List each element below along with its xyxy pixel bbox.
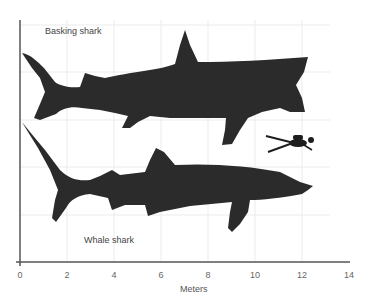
whale-shark-label: Whale shark (84, 235, 134, 245)
tick-14: 14 (344, 270, 354, 280)
diver-silhouette (266, 135, 314, 152)
tick-4: 4 (111, 270, 116, 280)
tick-10: 10 (250, 270, 260, 280)
basking-shark-silhouette (22, 30, 308, 145)
tick-6: 6 (158, 270, 163, 280)
tick-2: 2 (64, 270, 69, 280)
tick-12: 12 (297, 270, 307, 280)
tick-8: 8 (205, 270, 210, 280)
diagram-canvas (0, 0, 378, 308)
basking-shark-label: Basking shark (45, 26, 102, 36)
x-axis-title: Meters (180, 284, 208, 294)
tick-0: 0 (17, 270, 22, 280)
